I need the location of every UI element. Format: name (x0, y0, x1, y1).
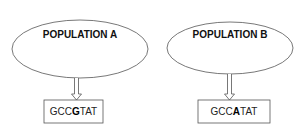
sequence-b-variant: A (233, 106, 240, 117)
population-a-group: POPULATION A GCCGTAT (12, 20, 148, 123)
population-a-label: POPULATION A (43, 29, 117, 40)
sequence-a-text: GCCGTAT (50, 106, 97, 117)
sequence-b-text: GCCATAT (211, 106, 258, 117)
arrow-down-icon (225, 74, 235, 100)
population-b-group: POPULATION B GCCATAT (167, 22, 293, 123)
arrow-down-icon (72, 78, 82, 100)
population-diagram: POPULATION A GCCGTAT POPULATION B GCCATA… (0, 0, 299, 137)
population-b-label: POPULATION B (193, 29, 268, 40)
